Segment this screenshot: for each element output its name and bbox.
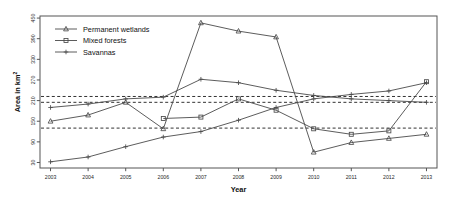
- y-axis-tick-label: 390: [30, 34, 36, 43]
- x-axis-tick-label: 2008: [233, 174, 245, 180]
- x-axis-tick-label: 2005: [120, 174, 132, 180]
- legend-item[interactable]: Savannas: [55, 48, 116, 57]
- x-axis-tick-label: 2007: [195, 174, 207, 180]
- y-axis-title: Area in km2: [12, 71, 22, 112]
- y-axis-tick-label: 150: [30, 117, 36, 126]
- marker-plus: [123, 144, 128, 149]
- marker-plus: [424, 100, 429, 105]
- marker-plus: [48, 160, 53, 165]
- series-savannas: [48, 80, 429, 164]
- legend-item[interactable]: Mixed forests: [55, 36, 127, 45]
- marker-plus: [387, 89, 392, 94]
- x-axis-tick-label: 2003: [45, 174, 57, 180]
- marker-plus: [349, 97, 354, 102]
- marker-plus: [123, 97, 128, 102]
- x-axis-tick-label: 2012: [383, 174, 395, 180]
- marker-plus: [311, 93, 316, 98]
- x-axis-tick-label: 2013: [421, 174, 433, 180]
- series-savannas: [48, 77, 429, 110]
- legend-label: Savannas: [83, 48, 116, 57]
- legend-label: Permanent wetlands: [83, 25, 150, 34]
- x-axis-title: Year: [231, 185, 247, 194]
- legend-label: Mixed forests: [83, 36, 127, 45]
- marker-plus: [161, 95, 166, 100]
- x-axis-tick-label: 2011: [346, 174, 357, 180]
- y-axis-tick-label: 330: [30, 55, 36, 64]
- x-axis-tick-label: 2004: [82, 174, 94, 180]
- series-path: [163, 82, 426, 135]
- y-axis-tick-label: 90: [30, 139, 36, 145]
- y-axis-tick-label: 30: [30, 160, 36, 166]
- legend: Permanent wetlandsMixed forestsSavannas: [55, 25, 150, 57]
- marker-plus: [199, 77, 204, 82]
- x-axis-tick-label: 2010: [308, 174, 320, 180]
- y-axis-tick-label: 450: [30, 14, 36, 23]
- marker-triangle: [424, 132, 429, 136]
- y-axis-tick-label: 270: [30, 76, 36, 85]
- marker-plus: [86, 155, 91, 160]
- chart-canvas: 3090150210270330390450200320042005200620…: [0, 0, 451, 211]
- marker-plus: [236, 80, 241, 85]
- marker-plus: [48, 105, 53, 110]
- x-axis-tick-label: 2006: [158, 174, 170, 180]
- marker-plus: [199, 129, 204, 134]
- marker-plus: [236, 118, 241, 123]
- line-chart-figure: 3090150210270330390450200320042005200620…: [0, 0, 451, 211]
- x-axis-tick-label: 2009: [270, 174, 282, 180]
- marker-plus: [274, 88, 279, 93]
- y-axis-title-text: Area in km2: [12, 71, 22, 112]
- legend-item[interactable]: Permanent wetlands: [55, 25, 150, 34]
- marker-plus: [64, 50, 69, 55]
- y-axis-tick-label: 210: [30, 96, 36, 105]
- marker-plus: [161, 135, 166, 140]
